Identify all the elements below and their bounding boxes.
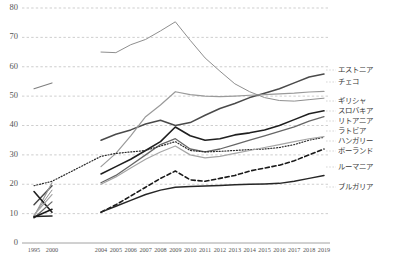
x-tick-label: 2012 — [214, 246, 226, 253]
x-tick-label: 2015 — [258, 246, 270, 253]
x-tick-label: 2009 — [169, 246, 181, 253]
y-tick-label: 30 — [10, 149, 19, 159]
early-segments-group — [34, 183, 52, 218]
y-tick-label: 70 — [10, 31, 19, 41]
x-tick-label: 2019 — [318, 246, 330, 253]
x-tick-label: 2010 — [184, 246, 196, 253]
data-series-group — [34, 22, 324, 212]
series-line-poland — [101, 137, 324, 185]
y-axis-tick-labels: 01020304050607080 — [10, 2, 19, 247]
x-tick-label: 2017 — [288, 246, 300, 253]
x-tick-label: 2013 — [229, 246, 241, 253]
y-tick-label: 20 — [10, 178, 19, 188]
x-tick-label: 2000 — [46, 246, 58, 253]
y-tick-label: 10 — [10, 208, 19, 218]
legend-label: リトアニア — [338, 116, 373, 125]
x-tick-label: 2008 — [154, 246, 166, 253]
x-axis-tick-labels: 1995200020042005200620072008200920102011… — [28, 246, 330, 253]
legend-label: エストニア — [338, 65, 373, 74]
y-tick-label: 40 — [10, 119, 19, 129]
legend-label: ポーランド — [338, 146, 373, 155]
series-line-estonia — [101, 22, 324, 101]
y-tick-label: 60 — [10, 61, 19, 71]
line-chart: 01020304050607080 1995200020042005200620… — [0, 0, 395, 274]
y-tick-label: 80 — [10, 2, 19, 12]
series-line-romania — [101, 149, 324, 212]
x-tick-label: 2004 — [95, 246, 107, 253]
x-tick-label: 2006 — [125, 246, 137, 253]
x-tick-label: 2007 — [139, 246, 151, 253]
x-tick-label: 2014 — [243, 246, 255, 253]
legend-label: ギリシャ — [338, 96, 366, 105]
legend-label: チェコ — [338, 77, 359, 86]
series-line-latvia — [101, 117, 324, 183]
x-tick-label: 2018 — [303, 246, 315, 253]
legend-label: ハンガリー — [338, 136, 373, 145]
series-line-greece — [34, 83, 52, 89]
x-tick-label: 2005 — [110, 246, 122, 253]
legend-label: ラトビア — [338, 126, 366, 135]
legend-label: スロバキア — [338, 106, 373, 115]
legend-label: ブルガリア — [338, 182, 373, 191]
x-tick-label: 2016 — [273, 246, 285, 253]
legend-label: ルーマニア — [338, 162, 373, 171]
chart-canvas: 01020304050607080 1995200020042005200620… — [0, 0, 395, 274]
y-tick-label: 0 — [14, 237, 18, 247]
x-tick-label: 2011 — [199, 246, 211, 253]
x-tick-label: 1995 — [28, 246, 40, 253]
y-tick-label: 50 — [10, 90, 19, 100]
legend: エストニアチェコギリシャスロバキアリトアニアラトビアハンガリーポーランドルーマニ… — [326, 65, 373, 191]
